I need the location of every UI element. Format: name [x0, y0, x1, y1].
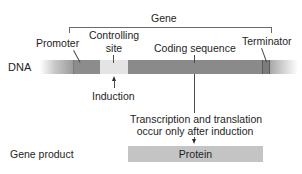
induction-label: Induction	[92, 90, 135, 102]
gene-product-label: Gene product	[10, 148, 74, 160]
terminator-label: Terminator	[242, 35, 292, 47]
induction-arrow-shaft	[114, 80, 115, 88]
coding-sequence-leader-line	[194, 55, 195, 63]
expression-line	[194, 74, 195, 113]
controlling-site-segment	[100, 60, 128, 74]
process-text-line2: occur only after induction	[130, 125, 260, 137]
coding-sequence-segment	[128, 60, 262, 74]
coding-sequence-label: Coding sequence	[154, 42, 236, 54]
promoter-segment	[73, 60, 101, 74]
protein-bar: Protein	[128, 146, 263, 162]
dna-upstream-segment	[40, 60, 73, 74]
gene-bracket-left-tick	[69, 27, 70, 33]
dna-downstream-segment	[270, 60, 298, 74]
product-arrow-head-icon	[192, 139, 196, 144]
process-text-line1: Transcription and translation	[130, 113, 260, 125]
dna-label: DNA	[8, 61, 31, 73]
gene-bracket-right-tick	[271, 27, 272, 33]
gene-label: Gene	[151, 12, 181, 24]
controlling-site-leader-line	[113, 55, 114, 63]
controlling-site-label-line2: site	[88, 42, 140, 54]
gene-bracket	[69, 27, 272, 28]
controlling-site-label-line1: Controlling	[88, 29, 140, 41]
promoter-label: Promoter	[36, 37, 79, 49]
